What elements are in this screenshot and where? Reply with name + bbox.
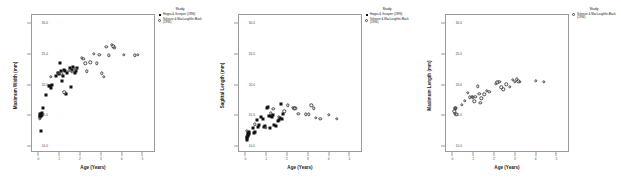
y-axis-label-1: Maximum Width (mm) bbox=[13, 26, 18, 146]
filled-square-marker bbox=[274, 125, 277, 128]
legend-1: Study Hoppa & Gruspier (1996) Scheuer & … bbox=[158, 7, 207, 26]
legend-entry-scheuer: Scheuer & MacLaughlin-Black (1994) bbox=[158, 18, 207, 25]
y-tick-mark bbox=[27, 23, 31, 24]
filled-square-marker bbox=[248, 130, 251, 133]
x-tick-label: 5 bbox=[556, 157, 558, 161]
y-tick-mark bbox=[234, 23, 238, 24]
y-tick-label: 10.0 bbox=[42, 144, 48, 148]
legend-label-hoppa: Hoppa & Gruspier (1996) bbox=[370, 13, 402, 16]
y-tick-label: 15.0 bbox=[456, 113, 462, 117]
filled-square-marker bbox=[49, 86, 52, 89]
legend-entry-scheuer: Scheuer & MacLaughlin-Black (1994) bbox=[572, 13, 621, 20]
filled-square-marker bbox=[280, 117, 283, 120]
open-circle-marker bbox=[113, 46, 116, 49]
filled-square-marker bbox=[255, 118, 258, 121]
open-circle-marker bbox=[508, 85, 511, 88]
open-circle-marker bbox=[466, 91, 469, 94]
filled-square-marker bbox=[44, 94, 47, 97]
open-circle-marker bbox=[92, 52, 95, 55]
x-tick-label: 3 bbox=[514, 157, 516, 161]
y-tick-mark bbox=[234, 115, 238, 116]
y-tick-label: 10.0 bbox=[456, 144, 462, 148]
x-tick-label: 1 bbox=[58, 157, 60, 161]
filled-square-marker-icon bbox=[365, 13, 369, 17]
y-tick-mark bbox=[234, 145, 238, 146]
filled-square-marker bbox=[267, 106, 270, 109]
y-tick-label: 30.0 bbox=[249, 21, 255, 25]
open-circle-marker bbox=[319, 117, 322, 120]
y-tick-label: 25.0 bbox=[456, 52, 462, 56]
y-tick-mark bbox=[27, 53, 31, 54]
x-tick-mark bbox=[142, 152, 143, 156]
open-circle-marker bbox=[85, 70, 88, 73]
legend-label-scheuer: Scheuer & MacLaughlin-Black (1994) bbox=[577, 13, 620, 20]
x-tick-mark bbox=[514, 152, 515, 156]
x-tick-label: 0 bbox=[244, 157, 246, 161]
y-tick-label: 30.0 bbox=[456, 21, 462, 25]
open-circle-marker bbox=[472, 100, 475, 103]
y-tick-label: 30.0 bbox=[42, 21, 48, 25]
x-tick-mark bbox=[121, 152, 122, 156]
legend-3: Study Scheuer & MacLaughlin-Black (1994) bbox=[572, 7, 621, 20]
legend-label-scheuer: Scheuer & MacLaughlin-Black (1994) bbox=[370, 18, 413, 25]
filled-square-marker bbox=[66, 72, 69, 75]
plot-frame-2 bbox=[238, 14, 362, 152]
x-tick-label: 0 bbox=[37, 157, 39, 161]
y-tick-mark bbox=[27, 84, 31, 85]
x-tick-mark bbox=[266, 152, 267, 156]
scatter-panel-maximum-length: Maximum Length (mm) Age (Years) 30.025.0… bbox=[414, 0, 621, 179]
x-tick-mark bbox=[493, 152, 494, 156]
open-circle-marker bbox=[272, 107, 275, 110]
y-tick-mark bbox=[441, 53, 445, 54]
x-axis-label-2: Age (Years) bbox=[238, 165, 362, 170]
open-circle-marker bbox=[107, 54, 110, 57]
filled-square-marker bbox=[254, 131, 257, 134]
filled-square-marker-icon bbox=[158, 13, 162, 17]
open-circle-marker bbox=[482, 92, 485, 95]
x-tick-label: 4 bbox=[535, 157, 537, 161]
scatter-panel-maximum-width: Maximum Width (mm) Age (Years) 30.025.02… bbox=[0, 0, 207, 179]
open-circle-marker bbox=[82, 57, 85, 60]
open-circle-marker bbox=[283, 110, 286, 113]
x-tick-label: 1 bbox=[265, 157, 267, 161]
legend-label-scheuer: Scheuer & MacLaughlin-Black (1994) bbox=[163, 18, 206, 25]
y-tick-label: 15.0 bbox=[42, 113, 48, 117]
legend-title: Study bbox=[365, 7, 409, 11]
x-tick-label: 4 bbox=[328, 157, 330, 161]
x-tick-mark bbox=[452, 152, 453, 156]
y-tick-label: 20.0 bbox=[249, 83, 255, 87]
open-circle-marker bbox=[463, 99, 466, 102]
x-tick-label: 2 bbox=[493, 157, 495, 161]
open-circle-marker bbox=[314, 116, 317, 119]
x-tick-label: 4 bbox=[121, 157, 123, 161]
open-circle-marker bbox=[105, 45, 108, 48]
legend-2: Study Hoppa & Gruspier (1996) Scheuer & … bbox=[365, 7, 414, 26]
filled-square-marker bbox=[272, 113, 275, 116]
open-circle-marker bbox=[542, 80, 545, 83]
plot-frame-3 bbox=[445, 14, 569, 152]
open-circle-marker bbox=[497, 80, 500, 83]
filled-square-marker bbox=[69, 85, 72, 88]
y-axis-label-3: Maximum Length (mm) bbox=[427, 26, 432, 146]
y-tick-label: 25.0 bbox=[249, 52, 255, 56]
y-axis-label-2: Sagittal Length (mm) bbox=[220, 26, 225, 146]
x-axis-label-3: Age (Years) bbox=[445, 165, 569, 170]
open-circle-marker bbox=[83, 62, 86, 65]
x-tick-mark bbox=[349, 152, 350, 156]
open-circle-marker bbox=[487, 90, 490, 93]
open-circle-marker bbox=[49, 75, 52, 78]
filled-square-marker bbox=[279, 102, 282, 105]
open-circle-marker bbox=[534, 79, 537, 82]
x-tick-mark bbox=[245, 152, 246, 156]
x-tick-mark bbox=[535, 152, 536, 156]
x-tick-mark bbox=[286, 152, 287, 156]
x-tick-label: 3 bbox=[307, 157, 309, 161]
open-circle-marker bbox=[312, 107, 315, 110]
open-circle-marker bbox=[476, 84, 479, 87]
filled-square-marker bbox=[268, 127, 271, 130]
open-circle-marker bbox=[98, 53, 101, 56]
open-circle-marker bbox=[454, 107, 457, 110]
legend-label-hoppa: Hoppa & Gruspier (1996) bbox=[163, 13, 195, 16]
data-layer-2 bbox=[239, 15, 361, 151]
open-circle-marker bbox=[327, 113, 330, 116]
